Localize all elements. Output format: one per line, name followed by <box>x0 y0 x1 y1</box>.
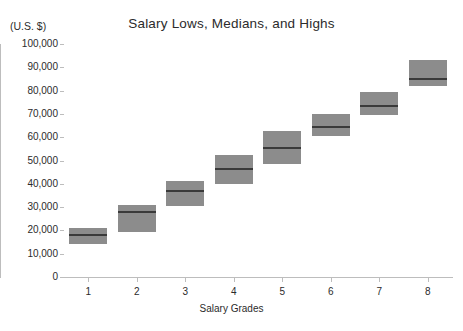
y-axis-tick-mark <box>60 44 64 45</box>
salary-median-line <box>360 105 398 107</box>
x-axis-line <box>64 277 453 278</box>
x-axis-tick-label: 1 <box>85 287 91 297</box>
salary-median-line <box>312 126 350 128</box>
y-axis-tick-label: 50,000 <box>27 156 58 166</box>
y-axis-tick-mark <box>60 67 64 68</box>
x-axis-tick-mark <box>234 278 235 282</box>
x-axis-tick-label: 7 <box>376 287 382 297</box>
salary-range-box <box>409 60 447 86</box>
x-axis-tick-mark <box>379 278 380 282</box>
salary-box-chart: Salary Lows, Medians, and Highs (U.S. $)… <box>0 0 463 331</box>
y-axis-tick-mark <box>60 137 64 138</box>
x-axis-tick-label: 5 <box>279 287 285 297</box>
salary-range-box <box>312 114 350 136</box>
x-axis-tick-mark <box>185 278 186 282</box>
salary-median-line <box>166 190 204 192</box>
x-axis-tick-mark <box>137 278 138 282</box>
x-axis-tick-label: 6 <box>328 287 334 297</box>
y-axis-tick-label: 90,000 <box>27 62 58 72</box>
salary-median-line <box>409 78 447 80</box>
y-axis-tick-label: 40,000 <box>27 179 58 189</box>
salary-range-box <box>263 131 301 164</box>
y-axis-tick-mark <box>60 184 64 185</box>
salary-range-box <box>118 205 156 232</box>
y-axis-tick-label: 70,000 <box>27 109 58 119</box>
x-axis-tick-label: 2 <box>134 287 140 297</box>
x-axis-tick-mark <box>331 278 332 282</box>
y-axis-tick-label: 60,000 <box>27 132 58 142</box>
salary-range-fill <box>360 92 398 115</box>
x-axis-tick-mark <box>88 278 89 282</box>
y-axis-tick-label: 80,000 <box>27 86 58 96</box>
salary-range-fill <box>166 181 204 205</box>
y-axis-tick-mark <box>60 277 64 278</box>
plot-area <box>64 44 452 277</box>
salary-range-box <box>360 92 398 115</box>
y-axis-tick-label: 0 <box>52 272 58 282</box>
salary-range-box <box>166 181 204 205</box>
y-axis-tick-label-group: 100,00090,00080,00070,00060,00050,00040,… <box>0 0 58 331</box>
x-axis-tick-mark <box>282 278 283 282</box>
x-axis-title: Salary Grades <box>0 303 463 314</box>
y-axis-tick-mark <box>60 207 64 208</box>
chart-title: Salary Lows, Medians, and Highs <box>0 16 463 31</box>
x-axis-tick-label: 4 <box>231 287 237 297</box>
salary-range-box <box>69 228 107 244</box>
salary-range-fill <box>69 228 107 244</box>
x-axis-tick-label: 3 <box>182 287 188 297</box>
salary-median-line <box>69 234 107 236</box>
salary-median-line <box>118 211 156 213</box>
y-axis-tick-mark <box>60 230 64 231</box>
y-axis-tick-mark <box>60 114 64 115</box>
x-axis-tick-label: 8 <box>425 287 431 297</box>
salary-median-line <box>263 147 301 149</box>
salary-range-fill <box>118 205 156 232</box>
y-axis-tick-mark <box>60 254 64 255</box>
y-axis-tick-label: 20,000 <box>27 225 58 235</box>
y-axis-tick-mark <box>60 91 64 92</box>
y-axis-tick-label: 30,000 <box>27 202 58 212</box>
salary-median-line <box>215 168 253 170</box>
x-axis-tick-mark <box>428 278 429 282</box>
y-axis-tick-mark <box>60 161 64 162</box>
y-axis-line <box>0 44 1 278</box>
salary-range-box <box>215 155 253 184</box>
salary-range-fill <box>409 60 447 86</box>
y-axis-tick-label: 10,000 <box>27 249 58 259</box>
y-axis-tick-label: 100,000 <box>22 39 58 49</box>
